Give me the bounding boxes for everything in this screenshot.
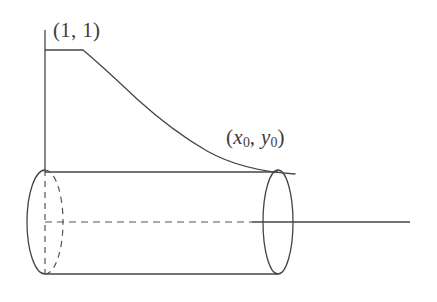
label-point-one-comma: , <box>71 18 82 42</box>
hyperbola-curve <box>83 50 295 174</box>
label-x0y0-close-paren: ) <box>278 125 285 149</box>
label-x0y0-y-symbol: y <box>261 125 271 149</box>
label-x0y0-y-subscript: 0 <box>271 135 278 150</box>
label-x0y0-comma: , <box>250 125 261 149</box>
label-point-x0y0: (x0, y0) <box>226 127 285 150</box>
figure-container: (1, 1) (x0, y0) <box>0 0 437 302</box>
label-x0y0-x-symbol: x <box>233 125 243 149</box>
label-point-one: (1, 1) <box>53 20 100 41</box>
label-x0y0-x-subscript: 0 <box>243 135 250 150</box>
label-point-one-y: 1 <box>82 18 93 42</box>
label-point-one-x: 1 <box>60 18 71 42</box>
label-point-one-close-paren: ) <box>93 18 100 42</box>
gabriels-horn-diagram <box>0 0 437 302</box>
left-ellipse-solid-arc <box>27 170 45 274</box>
